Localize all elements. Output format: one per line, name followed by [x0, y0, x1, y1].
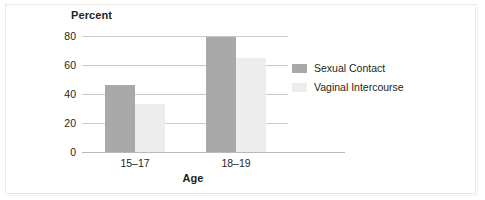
y-axis-title: Percent	[71, 9, 112, 21]
x-axis-title: Age	[183, 172, 204, 184]
y-tick-label-80: 80	[64, 30, 76, 42]
legend-swatch-icon-sexual-contact	[292, 64, 307, 73]
legend-item-sexual-contact: Sexual Contact	[292, 60, 404, 76]
gridline-80: 80	[82, 36, 288, 37]
chart-legend: Sexual Contact Vaginal Intercourse	[292, 60, 404, 98]
bar-sexual-contact-15-17	[105, 85, 135, 152]
x-category-label-18-19: 18–19	[221, 157, 250, 169]
y-tick-label-20: 20	[64, 117, 76, 129]
bar-vaginal-intercourse-18-19	[236, 58, 266, 152]
plot-area: 80 60 40 20 0	[98, 36, 288, 152]
legend-label-sexual-contact: Sexual Contact	[314, 62, 385, 74]
x-axis-baseline: 0	[82, 152, 345, 153]
chart-page: Percent 80 60 40 20 0	[0, 0, 485, 200]
y-tick-label-40: 40	[64, 88, 76, 100]
grouped-bar-chart: Percent 80 60 40 20 0	[0, 0, 485, 200]
bar-sexual-contact-18-19	[206, 37, 236, 152]
y-tick-label-0: 0	[70, 146, 76, 158]
legend-swatch-icon-vaginal-intercourse	[292, 83, 307, 92]
legend-label-vaginal-intercourse: Vaginal Intercourse	[314, 81, 404, 93]
bar-vaginal-intercourse-15-17	[135, 104, 165, 152]
x-category-label-15-17: 15–17	[120, 157, 149, 169]
y-tick-label-60: 60	[64, 59, 76, 71]
legend-item-vaginal-intercourse: Vaginal Intercourse	[292, 79, 404, 95]
